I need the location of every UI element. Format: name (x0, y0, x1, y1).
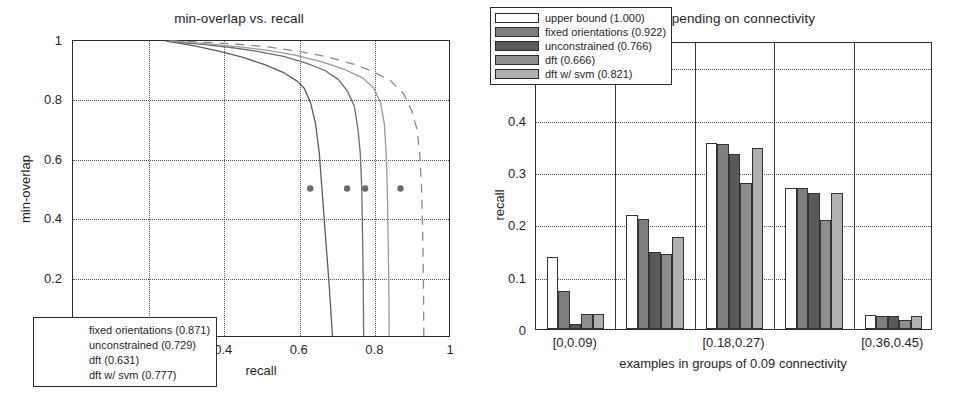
legend-row-fixed-orientations: fixed orientations (0.871) (39, 322, 210, 337)
legend-label-unconstrained: unconstrained (0.766) (545, 40, 652, 52)
legend-label-dft-svm: dft w/ svm (0.777) (89, 369, 176, 381)
bar-g2-s4 (752, 148, 764, 329)
curve-layer-left (73, 41, 449, 336)
bar-g0-s2 (570, 324, 582, 329)
bar-g1-s3 (661, 254, 673, 329)
x-axis-label-left: recall (245, 363, 276, 378)
bar-g0-s0 (547, 257, 559, 329)
plot-area-right (535, 42, 932, 330)
x-axis-label-right: examples in groups of 0.09 connectivity (619, 356, 847, 371)
plot-area-left (72, 40, 450, 337)
legend-row-upper-bound: upper bound (1.000) (495, 11, 666, 25)
y-tick-right-0: 0 (478, 323, 526, 338)
x-tick-right-0: [0,0.09) (553, 335, 597, 350)
legend-swatch-dft-svm (495, 69, 539, 79)
legend-row-dft-svm: dft w/ svm (0.777) (39, 367, 210, 382)
curve-0 (172, 41, 424, 336)
legend-row-dft: dft (0.631) (39, 352, 210, 367)
legend-row-unconstrained: unconstrained (0.729) (39, 337, 210, 352)
bar-g2-s1 (717, 144, 729, 329)
bar-g3-s2 (808, 193, 820, 329)
group-separator-3 (854, 43, 855, 329)
bar-g1-s1 (638, 219, 650, 329)
y-tick-right-4: 0.4 (478, 113, 526, 128)
bar-g2-s0 (706, 143, 718, 329)
bar-g3-s0 (785, 188, 797, 329)
legend-label-dft: dft (0.631) (89, 354, 139, 366)
curve-1 (167, 41, 364, 336)
figure-container: min-overlap vs. recall 0 0.2 0.4 0.6 0.8… (0, 0, 957, 393)
bars-layer (536, 43, 931, 329)
curve-marker-2 (307, 185, 313, 191)
bar-g2-s3 (740, 183, 752, 329)
group-separator-0 (615, 43, 616, 329)
bar-g4-s4 (911, 316, 923, 329)
legend-row-unconstrained: unconstrained (0.766) (495, 39, 666, 53)
legend-label-upper-bound: upper bound (1.000) (545, 12, 645, 24)
bar-g0-s4 (593, 314, 605, 329)
y-axis-label-right: recall (492, 189, 507, 220)
curve-marker-0 (397, 185, 403, 191)
x-tick-right-2: [0.36,0.45) (861, 335, 923, 350)
x-tick-right-1: [0.18,0.27) (702, 335, 764, 350)
chart-panel-min-overlap-vs-recall: min-overlap vs. recall 0 0.2 0.4 0.6 0.8… (0, 0, 478, 393)
legend-row-dft-svm: dft w/ svm (0.821) (495, 67, 666, 81)
legend-label-fixed-orientations: fixed orientations (0.922) (545, 26, 666, 38)
legend-left: fixed orientations (0.871) unconstrained… (33, 317, 217, 387)
chart-panel-recall-vs-connectivity: recall depending on connectivity 0 0.1 0… (478, 0, 957, 393)
y-tick-left-4: 0.8 (22, 92, 62, 107)
bar-g3-s4 (831, 193, 843, 329)
curve-3 (169, 41, 389, 336)
chart-title-left: min-overlap vs. recall (0, 11, 478, 26)
bar-g4-s3 (899, 320, 911, 329)
legend-swatch-dft (495, 55, 539, 65)
y-axis-label-left: min-overlap (18, 155, 33, 223)
bar-g3-s1 (797, 188, 809, 329)
legend-right: upper bound (1.000) fixed orientations (… (490, 7, 672, 85)
x-tick-left-5: 1 (446, 342, 453, 357)
group-separator-2 (774, 43, 775, 329)
bar-g1-s0 (626, 215, 638, 329)
x-tick-left-3: 0.6 (290, 342, 308, 357)
bar-g4-s1 (876, 316, 888, 329)
group-separator-1 (695, 43, 696, 329)
bar-g1-s4 (672, 237, 684, 329)
legend-swatch-unconstrained (495, 41, 539, 51)
legend-label-unconstrained: unconstrained (0.729) (89, 339, 196, 351)
y-tick-right-3: 0.3 (478, 165, 526, 180)
y-tick-right-1: 0.1 (478, 270, 526, 285)
bar-g3-s3 (820, 220, 832, 329)
bar-g0-s1 (558, 291, 570, 329)
legend-swatch-fixed-orientations (495, 27, 539, 37)
legend-swatch-upper-bound (495, 13, 539, 23)
legend-label-fixed-orientations: fixed orientations (0.871) (89, 324, 210, 336)
curve-marker-3 (362, 185, 368, 191)
bar-g4-s0 (865, 315, 877, 329)
bar-g0-s3 (581, 314, 593, 329)
y-tick-left-5: 1 (22, 33, 62, 48)
legend-label-dft: dft (0.666) (545, 54, 595, 66)
y-tick-left-1: 0.2 (22, 270, 62, 285)
curve-marker-1 (344, 185, 350, 191)
x-tick-left-4: 0.8 (365, 342, 383, 357)
bar-g4-s2 (888, 316, 900, 329)
bar-g2-s2 (729, 154, 741, 329)
legend-label-dft-svm: dft w/ svm (0.821) (545, 68, 632, 80)
bar-g1-s2 (649, 252, 661, 329)
legend-row-fixed-orientations: fixed orientations (0.922) (495, 25, 666, 39)
legend-row-dft: dft (0.666) (495, 53, 666, 67)
